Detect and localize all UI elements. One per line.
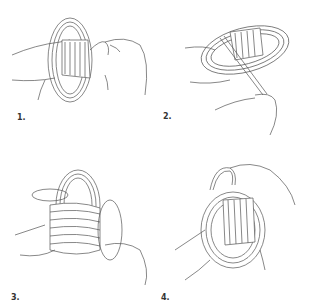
step-2-illustration xyxy=(155,0,310,150)
step-1-panel: 1. xyxy=(0,0,155,150)
step-4-illustration xyxy=(155,150,310,305)
step-1-illustration xyxy=(0,0,155,150)
step-1-label: 1. xyxy=(17,113,26,122)
step-3-illustration xyxy=(0,150,155,305)
step-4-panel: 4. xyxy=(155,150,310,305)
step-2-panel: 2. xyxy=(155,0,310,150)
step-3-panel: 3. xyxy=(0,150,155,305)
step-4-label: 4. xyxy=(161,293,170,302)
step-2-label: 2. xyxy=(163,112,172,121)
step-3-label: 3. xyxy=(11,293,20,302)
